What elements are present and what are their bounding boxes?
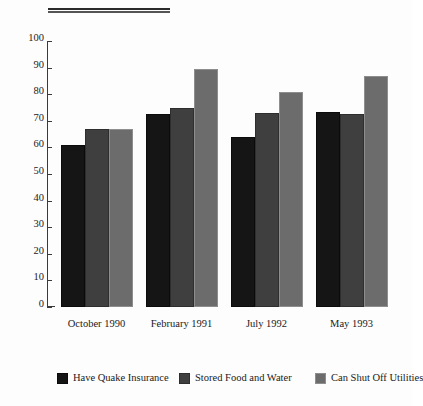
y-axis-tick-label: 100 [28,33,44,44]
bar-group [316,41,388,307]
y-axis-tick-label: 90 [34,60,45,71]
top-rule-lower-line [48,11,170,13]
top-rule-upper-line [48,8,170,10]
chart-legend: Have Quake InsuranceStored Food and Wate… [57,372,387,386]
y-axis-tick-label: 50 [34,166,45,177]
legend-item: Stored Food and Water [179,372,292,384]
plot-area: 1009080706050403020100 [47,41,387,307]
bar-group [231,41,303,307]
y-axis-tick-label: 0 [39,299,44,310]
bar-group [146,41,218,307]
bar [364,76,388,307]
bar-groups [48,41,387,307]
y-axis-tick-mark [47,307,52,308]
bar [255,113,279,307]
bar [109,129,133,307]
legend-item: Have Quake Insurance [57,372,169,384]
bar [316,112,340,308]
bar [146,114,170,307]
legend-label: Can Shut Off Utilities [331,372,423,384]
legend-label: Stored Food and Water [195,372,292,384]
y-axis-tick-label: 10 [34,272,45,283]
legend-swatch-icon [57,373,68,384]
y-axis-tick-label: 40 [34,193,45,204]
bar [170,108,194,308]
y-axis-tick-label: 80 [34,86,45,97]
y-axis-tick-label: 20 [34,246,45,257]
x-axis-category-label: July 1992 [246,318,287,330]
legend-item: Can Shut Off Utilities [315,372,423,384]
bar [194,69,218,307]
bar [279,92,303,307]
y-axis-tick-label: 30 [34,219,45,230]
legend-swatch-icon [315,373,326,384]
decorative-top-rule [48,8,170,13]
bar [231,137,255,307]
legend-swatch-icon [179,373,190,384]
y-axis-tick-label: 60 [34,139,45,150]
bar [61,145,85,307]
bar [85,129,109,307]
x-axis-category-label: May 1993 [330,318,373,330]
x-axis-category-label: October 1990 [68,318,125,330]
x-axis-category-label: February 1991 [151,318,213,330]
legend-label: Have Quake Insurance [73,372,169,384]
bar [340,114,364,307]
y-axis-tick-label: 70 [34,113,45,124]
bar-group [61,41,133,307]
